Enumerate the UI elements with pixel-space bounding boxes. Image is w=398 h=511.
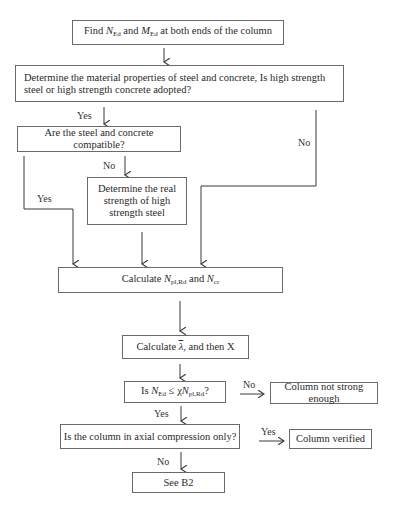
axial-no-label: No [157,456,169,467]
calc-lambda-text: Calculate λ, and then X [136,341,234,353]
find-forces-node: Find NEd and MEd at both ends of the col… [72,20,284,45]
axial-yes-label: Yes [261,426,276,437]
axial-compression-node: Is the column in axial compression only? [60,424,240,449]
find-forces-text: Find NEd and MEd at both ends of the col… [84,25,272,40]
calc-npl-text: Calculate Npl,Rd and Ncr [122,273,220,288]
not-strong-node: Column not strong enough [270,382,378,404]
real-strength-node: Determine the real strength of high stre… [87,177,187,225]
column-verified-text: Column verified [296,433,365,445]
material-yes-label: Yes [77,110,92,121]
real-strength-text: Determine the real strength of high stre… [94,183,180,219]
compatibility-node: Are the steel and concrete compatible? [17,126,181,152]
column-verified-node: Column verified [289,429,372,449]
see-b2-text: See B2 [163,477,193,489]
material-properties-text: Determine the material properties of ste… [24,72,335,96]
not-strong-text: Column not strong enough [271,381,377,405]
see-b2-node: See B2 [132,472,225,493]
check-yes-label: Yes [154,408,169,419]
axial-compression-text: Is the column in axial compression only? [64,431,237,443]
compatible-no-label: No [103,160,115,171]
material-properties-node: Determine the material properties of ste… [15,65,344,102]
calc-npl-node: Calculate Npl,Rd and Ncr [58,267,283,293]
material-no-label: No [298,137,310,148]
compatible-yes-label: Yes [37,193,52,204]
check-no-label: No [243,379,255,390]
compatibility-text: Are the steel and concrete compatible? [18,127,180,151]
calc-lambda-node: Calculate λ, and then X [122,335,249,359]
check-strength-text: Is NEd ≤ χNpl,Rd? [141,385,209,400]
check-strength-node: Is NEd ≤ χNpl,Rd? [124,381,226,403]
